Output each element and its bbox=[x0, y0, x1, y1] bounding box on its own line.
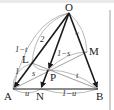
ratio-label-AN: u bbox=[25, 88, 29, 98]
vector-PN bbox=[42, 70, 49, 87]
label-point-A: A bbox=[4, 90, 12, 102]
ratio-label-LP: s bbox=[32, 68, 36, 78]
ratio-label-PM: 1−s bbox=[57, 48, 71, 58]
triangle-diagram: O A B N M L P 2 1−t 1 s 1−s t u 1−u bbox=[0, 0, 114, 110]
ratio-label-OL: 1−t bbox=[15, 44, 28, 54]
ratio-label-PB: t bbox=[76, 70, 79, 80]
label-point-M: M bbox=[89, 45, 99, 57]
label-point-P: P bbox=[50, 71, 56, 83]
vector-OP bbox=[49, 13, 69, 68]
label-point-N: N bbox=[36, 90, 44, 102]
label-point-B: B bbox=[96, 90, 103, 102]
ratio-label-NB: 1−u bbox=[62, 88, 76, 98]
ratio-label-LA: 1 bbox=[15, 66, 19, 76]
tick-OB bbox=[75, 33, 79, 34]
label-point-L: L bbox=[22, 53, 29, 65]
label-point-O: O bbox=[65, 1, 73, 13]
ratio-label-OA-2: 2 bbox=[40, 34, 45, 44]
